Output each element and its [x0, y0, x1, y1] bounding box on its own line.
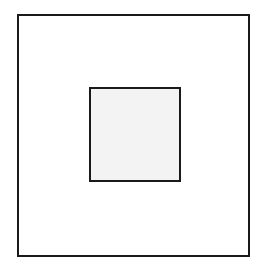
inner-square [89, 87, 181, 182]
